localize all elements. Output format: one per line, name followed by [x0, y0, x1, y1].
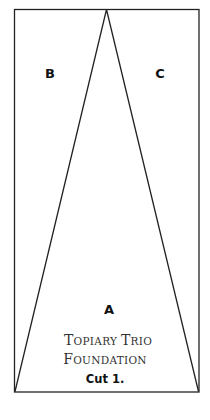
pattern-title-line2: FOUNDATION	[63, 351, 147, 367]
pattern-title-line1: TOPIARY TRIO	[64, 332, 152, 348]
cut-instruction: Cut 1.	[86, 372, 125, 386]
section-label-c: C	[155, 66, 165, 81]
section-label-a: A	[104, 302, 114, 317]
foundation-pattern: B C A TOPIARY TRIO FOUNDATION Cut 1.	[0, 0, 210, 420]
section-label-b: B	[45, 66, 55, 81]
